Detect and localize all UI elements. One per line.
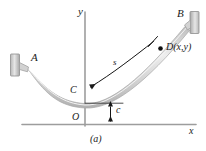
cable-diagram-figure: A B C D(x,y) s c O x y (a) xyxy=(0,0,206,151)
label-y-axis: y xyxy=(78,6,83,17)
label-point-c: C xyxy=(70,85,77,95)
label-origin: O xyxy=(72,112,79,122)
arc-length-annotation xyxy=(91,37,158,88)
cable-group xyxy=(27,27,190,109)
label-x-axis: x xyxy=(189,126,193,136)
axis-group xyxy=(22,12,196,126)
label-point-b: B xyxy=(177,8,184,19)
figure-caption: (a) xyxy=(90,134,102,144)
left-support-pad xyxy=(11,54,20,76)
cable-band xyxy=(27,27,190,109)
left-support-bracket xyxy=(20,63,29,72)
arc-length-arrow xyxy=(91,42,154,88)
left-support xyxy=(11,54,29,76)
label-point-d: D(x,y) xyxy=(166,42,191,52)
arc-length-tick xyxy=(149,37,158,47)
label-point-a: A xyxy=(31,52,38,63)
right-support-pad xyxy=(190,12,199,34)
figure-canvas xyxy=(0,0,206,151)
point-d-marker xyxy=(158,46,163,51)
label-sag-c: c xyxy=(116,105,120,115)
label-arc-length-s: s xyxy=(113,58,117,67)
